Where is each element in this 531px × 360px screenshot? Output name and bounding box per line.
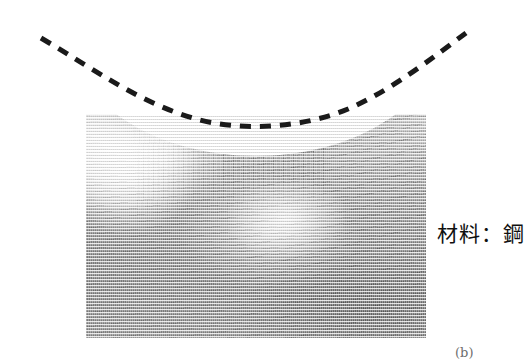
figure-label: (b) [455,345,473,359]
figure-root: 材料：鋼 (b) [0,0,531,360]
material-caption: 材料：鋼 [437,219,525,249]
halftone-dot-screen [86,114,426,338]
micrograph-photo [86,114,426,338]
profile-dashed-path [41,33,466,126]
